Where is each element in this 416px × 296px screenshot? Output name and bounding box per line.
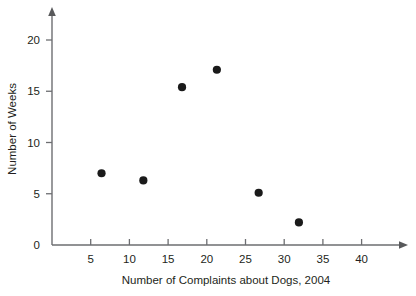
x-tick-label: 15 — [162, 253, 175, 265]
x-axis-ticks — [91, 239, 362, 245]
x-tick-label: 20 — [200, 253, 213, 265]
plot-area: 05101520 510152025303540 Number of Compl… — [0, 0, 416, 296]
arrow-up-icon — [48, 7, 56, 16]
y-tick-label: 20 — [27, 34, 40, 46]
data-points — [97, 66, 303, 227]
data-point — [295, 218, 303, 226]
arrow-right-icon — [399, 241, 408, 249]
x-tick-label: 35 — [317, 253, 330, 265]
y-tick-label: 5 — [34, 188, 40, 200]
data-point — [213, 66, 221, 74]
x-tick-label: 25 — [239, 253, 252, 265]
y-axis-title: Number of Weeks — [6, 83, 18, 175]
x-tick-label: 30 — [278, 253, 291, 265]
data-point — [139, 176, 147, 184]
x-tick-label: 40 — [355, 253, 368, 265]
y-axis-tick-labels: 05101520 — [27, 34, 40, 251]
data-point — [178, 83, 186, 91]
y-axis-ticks — [46, 40, 52, 194]
x-tick-label: 10 — [123, 253, 136, 265]
y-tick-label: 15 — [27, 85, 40, 97]
y-tick-label: 0 — [34, 239, 40, 251]
y-tick-label: 10 — [27, 137, 40, 149]
data-point — [97, 169, 105, 177]
scatter-chart: 05101520 510152025303540 Number of Compl… — [0, 0, 416, 296]
data-point — [255, 189, 263, 197]
x-axis-tick-labels: 510152025303540 — [87, 253, 368, 265]
x-axis-title: Number of Complaints about Dogs, 2004 — [122, 274, 331, 286]
x-tick-label: 5 — [87, 253, 93, 265]
